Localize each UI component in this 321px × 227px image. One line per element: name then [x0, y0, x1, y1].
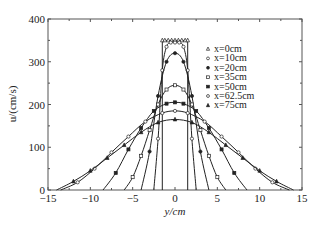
- circle-filled-marker-icon: [190, 94, 193, 97]
- square-filled-marker-icon: [140, 126, 143, 129]
- square-filled-marker-icon: [207, 126, 210, 129]
- series-x-35cm: [124, 84, 226, 190]
- x-tick-label: 10: [254, 192, 266, 204]
- series-x-75cm: [57, 117, 294, 190]
- y-tick-label: 0: [40, 184, 46, 196]
- legend-label: x=75cm: [214, 99, 247, 110]
- circle-open-marker-icon: [165, 45, 168, 48]
- triangle-filled-marker-icon: [89, 169, 93, 173]
- diamond-open-marker-icon: [127, 135, 130, 138]
- circle-open-marker-icon: [169, 41, 172, 44]
- triangle-filled-marker-icon: [122, 143, 126, 147]
- circle-filled-marker-icon: [156, 94, 159, 97]
- diamond-open-marker-icon: [161, 111, 164, 114]
- square-open-marker-icon: [182, 88, 185, 91]
- plot-frame: [48, 19, 302, 190]
- x-tick-label: 15: [297, 192, 309, 204]
- triangle-filled-marker-icon: [206, 103, 209, 106]
- triangle-open-marker-icon: [186, 38, 190, 42]
- square-open-marker-icon: [131, 176, 134, 179]
- diamond-open-marker-icon: [271, 181, 274, 184]
- series-x-10cm: [154, 41, 196, 190]
- circle-open-marker-icon: [178, 41, 181, 44]
- circle-filled-marker-icon: [165, 60, 168, 63]
- square-open-marker-icon: [157, 103, 160, 106]
- square-open-marker-icon: [207, 154, 210, 157]
- square-open-marker-icon: [165, 88, 168, 91]
- series-layer: [57, 38, 294, 190]
- triangle-filled-marker-icon: [241, 156, 245, 160]
- velocity-profile-chart: −15−10−50510150100200300400 x=0cmx=10cmx…: [0, 0, 321, 227]
- triangle-filled-marker-icon: [275, 179, 279, 183]
- circle-filled-marker-icon: [173, 52, 176, 55]
- triangle-filled-marker-icon: [173, 117, 177, 121]
- y-tick-label: 100: [29, 141, 46, 153]
- triangle-filled-marker-icon: [224, 143, 228, 147]
- triangle-open-marker-icon: [163, 38, 167, 42]
- circle-open-marker-icon: [156, 137, 159, 140]
- diamond-open-marker-icon: [220, 135, 223, 138]
- x-tick-label: −5: [127, 192, 139, 204]
- diamond-open-marker-icon: [207, 95, 210, 98]
- triangle-filled-marker-icon: [105, 156, 109, 160]
- square-open-marker-icon: [190, 103, 193, 106]
- square-filled-marker-icon: [195, 109, 198, 112]
- legend-item: x=75cm: [206, 99, 247, 110]
- circle-filled-marker-icon: [182, 60, 185, 63]
- circle-filled-marker-icon: [199, 150, 202, 153]
- diamond-open-marker-icon: [144, 120, 147, 123]
- series-line: [141, 53, 209, 190]
- diamond-open-marker-icon: [186, 111, 189, 114]
- square-open-marker-icon: [199, 129, 202, 132]
- y-tick-label: 400: [29, 13, 46, 25]
- series-x-62-5cm: [61, 109, 290, 190]
- diamond-open-marker-icon: [173, 109, 176, 112]
- square-open-marker-icon: [173, 84, 176, 87]
- series-line: [57, 120, 294, 191]
- square-filled-marker-icon: [220, 148, 223, 151]
- square-filled-marker-icon: [114, 171, 117, 174]
- legend: x=0cmx=10cmx=20cmx=35cmx=50cmx=62.5cmx=7…: [206, 43, 254, 110]
- square-filled-marker-icon: [182, 102, 185, 105]
- triangle-open-marker-icon: [206, 47, 209, 50]
- circle-open-marker-icon: [190, 137, 193, 140]
- x-tick-label: −10: [82, 192, 100, 204]
- diamond-open-marker-icon: [76, 181, 79, 184]
- circle-open-marker-icon: [207, 57, 210, 60]
- circle-filled-marker-icon: [148, 150, 151, 153]
- square-open-marker-icon: [140, 154, 143, 157]
- triangle-filled-marker-icon: [258, 169, 262, 173]
- square-open-marker-icon: [148, 129, 151, 132]
- square-filled-marker-icon: [127, 148, 130, 151]
- square-filled-marker-icon: [207, 85, 210, 88]
- y-tick-label: 200: [29, 99, 46, 111]
- circle-filled-marker-icon: [207, 66, 210, 69]
- triangle-filled-marker-icon: [72, 179, 76, 183]
- x-tick-label: 0: [172, 192, 178, 204]
- circle-open-marker-icon: [182, 45, 185, 48]
- square-filled-marker-icon: [165, 102, 168, 105]
- square-filled-marker-icon: [173, 101, 176, 104]
- diamond-open-marker-icon: [203, 120, 206, 123]
- x-axis-title: y/cm: [164, 205, 186, 217]
- square-open-marker-icon: [216, 176, 219, 179]
- square-filled-marker-icon: [233, 171, 236, 174]
- circle-open-marker-icon: [173, 41, 176, 44]
- square-filled-marker-icon: [152, 109, 155, 112]
- square-open-marker-icon: [207, 76, 210, 79]
- series-line: [61, 111, 290, 190]
- plot-area-border: [48, 19, 302, 190]
- series-line: [154, 42, 196, 190]
- y-axis-title: u/(cm/s): [6, 85, 19, 122]
- y-tick-label: 300: [29, 56, 46, 68]
- x-tick-label: 5: [215, 192, 221, 204]
